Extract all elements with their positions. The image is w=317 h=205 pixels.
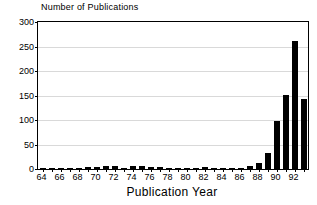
y-tick-label: 150 [19, 91, 34, 101]
x-tick-label: 70 [90, 172, 100, 182]
bar [94, 167, 100, 169]
bar [67, 168, 73, 169]
bar [193, 168, 199, 169]
x-tick-mark [160, 169, 161, 172]
x-tick-mark [232, 169, 233, 172]
bar [265, 153, 271, 169]
x-axis-title: Publication Year [37, 185, 307, 199]
y-axis-title: Number of Publications [41, 2, 138, 12]
x-tick-mark [106, 169, 107, 172]
bar [292, 41, 298, 169]
x-tick-label: 90 [270, 172, 280, 182]
bar [283, 95, 289, 169]
x-tick-mark [70, 169, 71, 172]
bar [184, 168, 190, 169]
x-tick-label: 86 [234, 172, 244, 182]
x-tick-mark [178, 169, 179, 172]
x-tick-label: 78 [162, 172, 172, 182]
bar [121, 168, 127, 169]
bar [103, 166, 109, 169]
y-tick-label: 100 [19, 115, 34, 125]
bar [40, 168, 46, 169]
bar [175, 168, 181, 169]
bar [49, 168, 55, 169]
x-tick-mark [142, 169, 143, 172]
x-tick-label: 80 [180, 172, 190, 182]
bar [256, 163, 262, 169]
y-tick-label: 250 [19, 42, 34, 52]
x-tick-label: 84 [216, 172, 226, 182]
bar [85, 167, 91, 169]
x-tick-label: 68 [72, 172, 82, 182]
bar [247, 166, 253, 169]
x-tick-label: 82 [198, 172, 208, 182]
plot-area: 050100150200250300 [37, 21, 309, 170]
bar [58, 168, 64, 169]
x-tick-label: 76 [144, 172, 154, 182]
y-tick-label: 300 [19, 17, 34, 27]
bar [220, 168, 226, 169]
x-tick-mark [88, 169, 89, 172]
x-tick-mark [268, 169, 269, 172]
y-tick-label: 50 [24, 140, 34, 150]
x-tick-label: 66 [54, 172, 64, 182]
publication-year-bar-chart: Number of Publications 05010015020025030… [0, 0, 317, 205]
bar [76, 168, 82, 169]
bars-container [38, 22, 308, 169]
bar [157, 167, 163, 169]
y-tick-label: 200 [19, 66, 34, 76]
y-tick-label: 0 [29, 164, 34, 174]
x-tick-mark [304, 169, 305, 172]
bar [130, 166, 136, 169]
x-tick-label: 64 [36, 172, 46, 182]
bar [211, 168, 217, 169]
bar [166, 168, 172, 169]
bar [301, 99, 307, 169]
x-tick-mark [124, 169, 125, 172]
x-tick-label: 74 [126, 172, 136, 182]
bar [139, 166, 145, 169]
x-tick-label: 88 [252, 172, 262, 182]
y-tick-mark [35, 169, 38, 170]
x-tick-mark [52, 169, 53, 172]
bar [148, 167, 154, 169]
x-tick-mark [196, 169, 197, 172]
x-tick-mark [286, 169, 287, 172]
x-tick-label: 72 [108, 172, 118, 182]
bar [202, 167, 208, 169]
bar [238, 168, 244, 169]
x-tick-label: 92 [288, 172, 298, 182]
bar [112, 166, 118, 169]
x-tick-mark [250, 169, 251, 172]
bar [229, 168, 235, 169]
bar [274, 121, 280, 170]
x-tick-mark [214, 169, 215, 172]
